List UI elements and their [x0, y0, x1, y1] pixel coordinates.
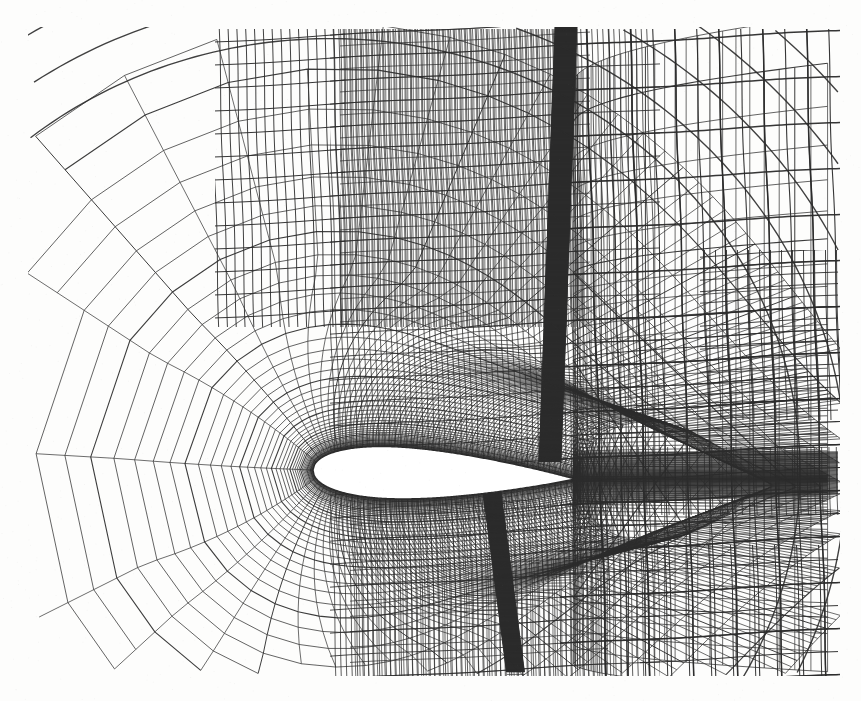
mesh-figure: Adaptively refined structured C-grid / O…	[0, 0, 861, 701]
cfd-mesh-canvas	[0, 0, 861, 701]
